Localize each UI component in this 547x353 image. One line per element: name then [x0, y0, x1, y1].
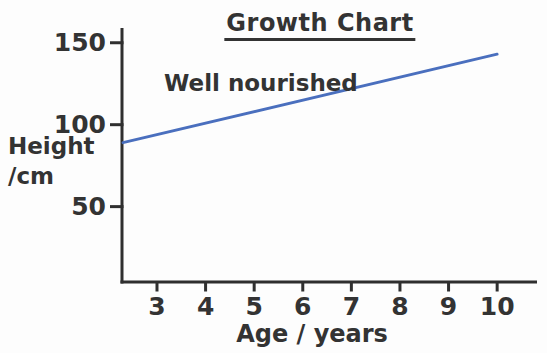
y-axis-label-line2: /cm [8, 163, 54, 189]
y-tick-label-50: 50 [46, 194, 106, 220]
y-axis-label: Height /cm [8, 131, 95, 191]
series-label-well-nourished: Well nourished [164, 70, 358, 96]
y-tick-label-150: 150 [46, 30, 106, 56]
x-tick-label-3: 3 [148, 294, 165, 320]
x-tick-label-7: 7 [343, 294, 360, 320]
x-tick-label-8: 8 [391, 294, 408, 320]
x-axis-label: Age / years [236, 320, 388, 348]
x-tick-label-4: 4 [197, 294, 214, 320]
x-tick-label-6: 6 [294, 294, 311, 320]
y-tick-label-100: 100 [46, 112, 106, 138]
well-nourished-line [123, 54, 497, 142]
x-tick-label-9: 9 [440, 294, 457, 320]
growth-chart: Growth Chart Well nourished Height /cm A… [0, 0, 547, 353]
x-tick-label-10: 10 [480, 294, 515, 320]
x-tick-label-5: 5 [245, 294, 262, 320]
chart-title: Growth Chart [224, 9, 415, 41]
